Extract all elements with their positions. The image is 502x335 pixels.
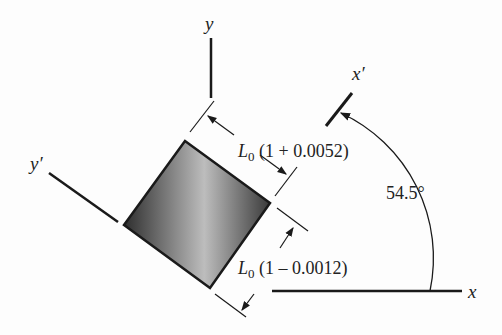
x-prime-axis-label: x′ [351,63,365,84]
y-prime-axis-label: y′ [28,153,43,174]
dim-top-ext-2 [275,167,297,196]
dim-bot-arrow-1 [280,228,293,248]
dimension-top-label: L0 (1 + 0.0052) [237,141,349,164]
dimension-bottom-label: L0 (1 – 0.0012) [237,258,348,281]
dim-top-arrow-1 [208,116,234,135]
strain-element-diagram: y x y′ x′ 54.5° L0 (1 + 0.0052) L0 (1 – … [0,0,502,335]
dim-bot-ext-2 [215,294,246,317]
dim-bot-arrow-2 [242,294,254,310]
dim-bot-ext-1 [277,208,308,231]
x-axis-label: x [467,281,477,302]
y-axis-label: y [203,13,214,34]
x-prime-axis-line [326,93,352,126]
angle-label: 54.5° [386,183,425,203]
y-prime-axis-line [49,173,118,222]
diagram-svg: y x y′ x′ 54.5° L0 (1 + 0.0052) L0 (1 – … [0,0,502,335]
dim-top-ext-1 [190,101,214,132]
